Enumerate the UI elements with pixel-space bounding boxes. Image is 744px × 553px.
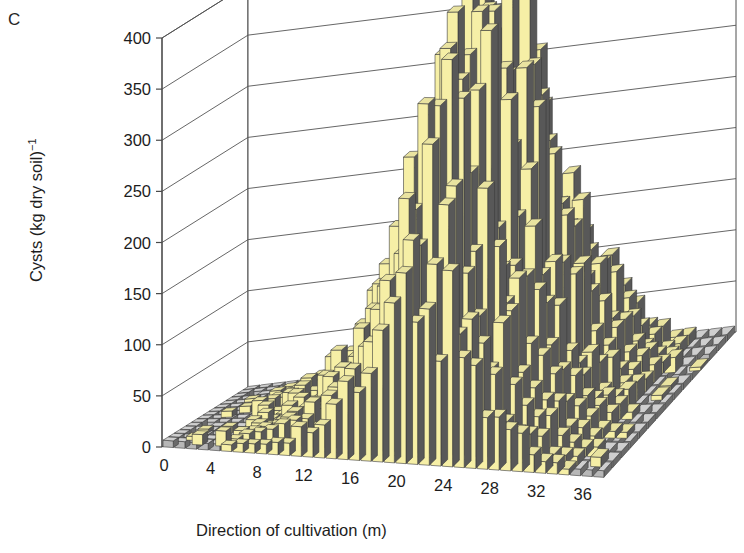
x-tick-label: 8	[252, 463, 261, 481]
y-tick-label: 50	[133, 387, 151, 405]
y-tick-label: 0	[142, 438, 151, 456]
chart-canvas: 050100150200250300350400 048121620242832…	[0, 0, 744, 553]
x-tick-label: 12	[294, 466, 312, 484]
x-tick-label: 16	[341, 469, 359, 487]
x-tick-label: 20	[387, 472, 405, 490]
x-tick-label: 36	[574, 485, 592, 503]
y-tick-label: 300	[123, 131, 151, 149]
y-axis-tick-labels: 050100150200250300350400	[123, 29, 151, 456]
y-axis	[156, 38, 162, 447]
y-tick-label: 350	[123, 80, 151, 98]
x-tick-label: 0	[159, 456, 168, 474]
x-tick-label: 28	[481, 479, 499, 497]
y-tick-label: 250	[123, 182, 151, 200]
y-tick-label: 150	[123, 285, 151, 303]
figure-panel-c: C Cysts (kg dry soil)−1 Direction of cul…	[0, 0, 744, 553]
x-tick-label: 24	[434, 476, 452, 494]
x-tick-label: 32	[527, 482, 545, 500]
y-tick-label: 400	[123, 29, 151, 47]
x-tick-label: 4	[206, 459, 215, 477]
y-tick-label: 200	[123, 234, 151, 252]
y-tick-label: 100	[123, 336, 151, 354]
